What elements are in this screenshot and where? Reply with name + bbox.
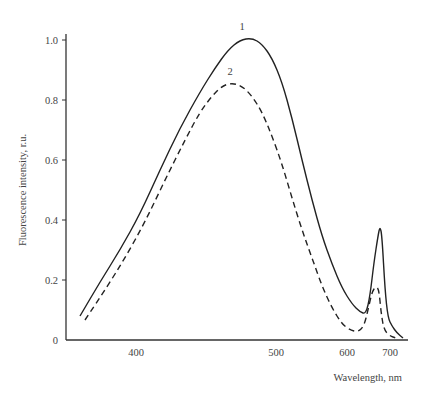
- y-tick-label: 0.6: [45, 155, 58, 166]
- x-tick-label: 500: [268, 347, 284, 358]
- x-tick-label: 400: [128, 347, 144, 358]
- axes: [66, 34, 408, 340]
- x-tick-label: 700: [382, 347, 398, 358]
- x-tick-label: 600: [339, 347, 355, 358]
- y-tick-label: 0.4: [45, 215, 59, 226]
- y-tick-label: 0.8: [45, 95, 58, 106]
- curve-label-2: 2: [227, 66, 232, 77]
- x-axis-ticks: 400500600700: [128, 347, 398, 358]
- y-tick-label: 0: [53, 335, 58, 346]
- curve-label-1: 1: [239, 21, 244, 32]
- fluorescence-chart: 00.20.40.60.81.0 400500600700 12 Fluores…: [0, 0, 436, 394]
- y-tick-label: 1.0: [45, 35, 58, 46]
- curve-1: [80, 39, 403, 338]
- y-tick-label: 0.2: [45, 275, 58, 286]
- x-axis-title: Wavelength, nm: [333, 372, 402, 383]
- y-axis-title: Fluorescence intensity, r.u.: [17, 134, 28, 246]
- y-axis-ticks: 00.20.40.60.81.0: [45, 35, 66, 346]
- curves: 12: [80, 21, 403, 338]
